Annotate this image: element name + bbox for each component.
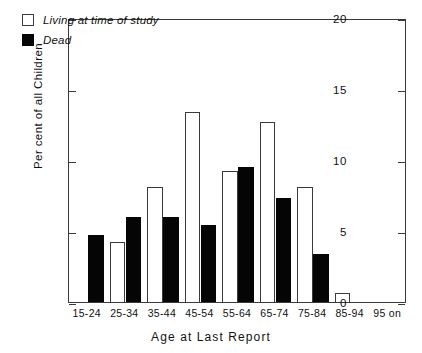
y-tick-label-15: 15 [317,84,347,96]
x-tick-label-55-64: 55-64 [223,307,251,319]
y-tick-label-10: 10 [317,155,347,167]
bar-living-65-74 [260,122,276,302]
legend-item-dead: Dead [22,31,159,48]
x-tick-label-15-24: 15-24 [73,307,101,319]
x-tick-label-95 on: 95 on [373,307,401,319]
plot-area [68,19,406,303]
bar-dead-75-84 [313,254,329,302]
bar-living-35-44 [147,187,163,302]
legend-label-dead: Dead [43,34,71,46]
y-tick-label-5: 5 [317,226,347,238]
x-axis-title: Age at Last Report [0,330,422,344]
legend-item-living: Living at time of study [22,11,159,28]
bar-dead-15-24 [88,235,104,302]
bar-dead-65-74 [276,198,292,302]
y-tick-right-0 [398,304,405,305]
chart-legend: Living at time of study Dead [22,11,159,51]
legend-label-living: Living at time of study [43,14,159,26]
bar-chart: Per cent of all Children 05101520 15-242… [0,0,422,353]
x-tick-label-85-94: 85-94 [335,307,363,319]
bar-living-55-64 [222,171,238,302]
x-tick-label-35-44: 35-44 [148,307,176,319]
bar-living-45-54 [185,112,201,302]
legend-swatch-open-square-icon [22,14,34,26]
bar-dead-25-34 [126,217,142,302]
x-tick-label-25-34: 25-34 [110,307,138,319]
x-tick-label-65-74: 65-74 [260,307,288,319]
bar-series-container [69,20,405,302]
bar-living-25-34 [110,242,126,302]
x-tick-label-75-84: 75-84 [298,307,326,319]
legend-swatch-filled-square-icon [22,34,34,46]
bar-dead-35-44 [163,217,179,302]
bar-dead-45-54 [201,225,217,302]
x-tick-label-45-54: 45-54 [185,307,213,319]
bar-living-75-84 [297,187,313,302]
y-tick-0 [69,304,76,305]
y-tick-label-20: 20 [317,13,347,25]
bar-dead-55-64 [238,167,254,302]
